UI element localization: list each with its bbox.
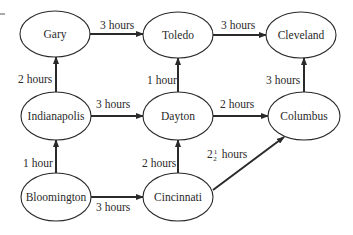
node-dayton: Dayton	[143, 92, 213, 140]
node-label-columbus: Columbus	[280, 110, 328, 122]
edge-label-cincinnati-to-dayton: 2 hours	[142, 157, 177, 169]
node-label-dayton: Dayton	[161, 110, 195, 123]
travel-time-graph: GaryToledoClevelandIndianapolisDaytonCol…	[0, 0, 353, 235]
node-label-indianapolis: Indianapolis	[28, 110, 85, 123]
edge-label-columbus-to-cleveland: 3 hours	[266, 74, 301, 86]
node-bloomington: Bloomington	[21, 173, 91, 221]
edge-label-dayton-to-toledo: 1 hour	[147, 74, 177, 86]
node-cleveland: Cleveland	[266, 12, 336, 58]
edge-label-toledo-to-cleveland: 3 hours	[221, 19, 256, 31]
edge-label-bloomington-to-cincinnati: 3 hours	[96, 201, 131, 213]
node-label-cleveland: Cleveland	[278, 29, 325, 41]
nodes-layer: GaryToledoClevelandIndianapolisDaytonCol…	[20, 11, 340, 221]
edge-label-gary-to-toledo: 3 hours	[100, 19, 135, 31]
node-label-toledo: Toledo	[162, 29, 194, 41]
node-indianapolis: Indianapolis	[21, 92, 91, 140]
edge-label-dayton-to-columbus: 2 hours	[220, 98, 255, 110]
node-label-bloomington: Bloomington	[26, 191, 87, 204]
node-toledo: Toledo	[143, 12, 213, 58]
edge-label-cincinnati-to-columbus: 212hours	[207, 148, 248, 163]
edge-label-indianapolis-to-gary: 2 hours	[18, 73, 53, 85]
node-cincinnati: Cincinnati	[143, 173, 213, 221]
edge-label-indianapolis-to-dayton: 3 hours	[96, 98, 131, 110]
node-gary: Gary	[20, 11, 90, 57]
edge-arrow-cincinnati-to-columbus	[213, 137, 284, 190]
node-columbus: Columbus	[268, 92, 340, 140]
node-label-cincinnati: Cincinnati	[154, 191, 202, 203]
node-label-gary: Gary	[44, 28, 67, 41]
edge-label-bloomington-to-indianapolis: 1 hour	[23, 157, 53, 169]
